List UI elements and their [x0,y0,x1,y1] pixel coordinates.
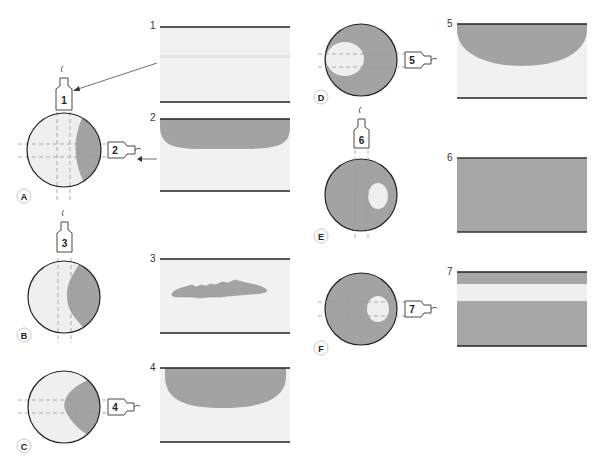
arrow-panel2-to-probe2 [137,156,157,162]
diagram-d-label: D [318,93,325,103]
probe-1: 1 [56,66,72,110]
diagram-b-label: B [21,331,28,341]
probe-4-label: 4 [112,402,118,413]
panel-7: 7 [447,266,587,346]
probe-5: 5 [405,52,437,68]
diagram-e: 6 E [314,107,397,243]
probe-3: 3 [57,210,72,252]
panel-5-number: 5 [447,18,453,29]
panel-4-number: 4 [150,362,156,373]
probe-3-label: 3 [62,238,68,249]
panel-6: 6 [447,152,587,232]
diagram-d: 5 D [314,24,437,104]
diagram-f-label: F [318,344,324,354]
probe-4: 4 [108,399,140,415]
arrow-panel1-to-probe1 [73,63,157,91]
probe-6-label: 6 [359,135,365,146]
probe-7-label: 7 [409,304,415,315]
diagram-e-label: E [318,232,324,242]
panel-1: 1 [150,20,290,102]
panel-2: 2 [150,112,290,191]
diagram-c: 4 C [17,371,140,453]
probe-5-label: 5 [409,55,415,66]
diagram-f: 7 F [314,273,437,355]
diagram-b: 3 B [17,210,110,343]
probe-2: 2 [108,142,141,158]
ultrasound-diagram: 1 2 A 3 B [0,0,603,458]
panel-2-number: 2 [150,112,156,123]
probe-6: 6 [354,107,369,148]
panel-3-number: 3 [150,253,156,264]
probe-7: 7 [405,301,437,317]
panel-1-number: 1 [150,20,156,31]
probe-1-label: 1 [61,95,67,106]
probe-2-label: 2 [112,145,118,156]
panel-3: 3 [150,253,290,333]
panel-4: 4 [150,362,290,442]
panel-5: 5 [447,18,587,98]
panel-7-number: 7 [447,266,453,277]
diagram-c-label: C [21,442,28,452]
panel-6-number: 6 [447,152,453,163]
diagram-a-label: A [21,192,28,202]
